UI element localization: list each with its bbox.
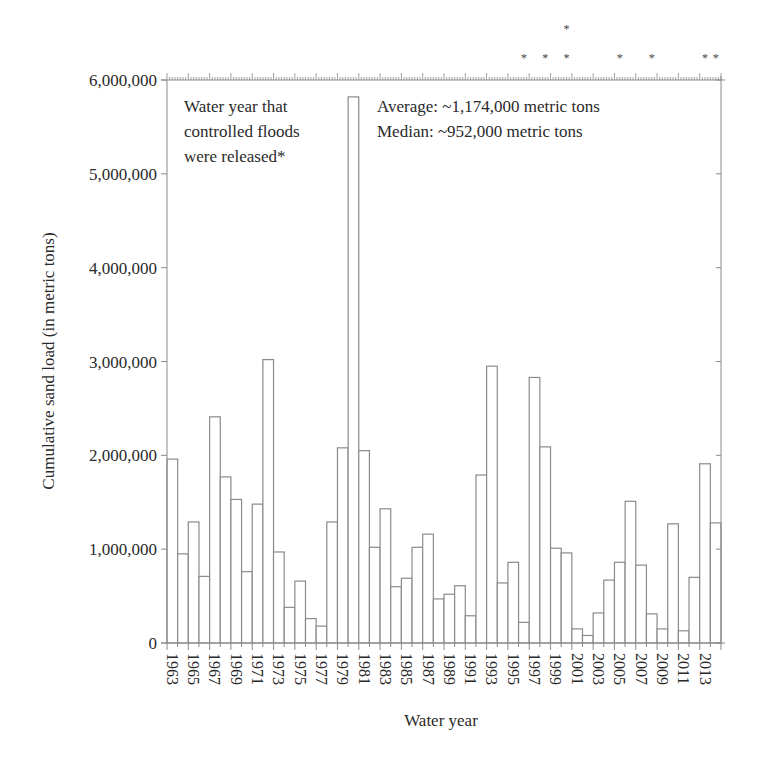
- bar-2008: [646, 614, 657, 643]
- flood-marker-2000: *: [564, 51, 570, 65]
- bar-1974: [284, 607, 295, 643]
- bar-1971: [252, 504, 263, 643]
- bar-1978: [327, 522, 338, 643]
- x-tick-label: 1999: [547, 653, 564, 685]
- bar-1982: [369, 547, 380, 643]
- y-tick-label: 1,000,000: [89, 540, 157, 559]
- bar-1976: [306, 619, 317, 643]
- bar-1989: [444, 594, 455, 643]
- x-tick-label: 2013: [697, 653, 714, 685]
- top-axis-minor-ticks: [167, 73, 721, 80]
- x-tick-label: 1967: [206, 653, 223, 685]
- bar-2011: [678, 631, 689, 643]
- bar-1999: [551, 548, 562, 643]
- bar-2000: [561, 553, 572, 643]
- y-tick-label: 4,000,000: [89, 259, 157, 278]
- bar-1979: [337, 448, 348, 643]
- chart-container: 01,000,0002,000,0003,000,0004,000,0005,0…: [0, 0, 767, 770]
- bar-1983: [380, 509, 391, 643]
- bar-1993: [487, 366, 498, 643]
- bar-2001: [572, 629, 583, 643]
- x-tick-label: 1963: [164, 653, 181, 685]
- y-axis-title: Cumulative sand load (in metric tons): [39, 232, 58, 489]
- bar-1975: [295, 581, 306, 643]
- annotation-median: Median: ~952,000 metric tons: [377, 122, 583, 141]
- bar-1969: [231, 499, 242, 643]
- x-tick-label: 1989: [441, 653, 458, 685]
- bar-2009: [657, 629, 668, 643]
- bar-2014: [710, 523, 721, 643]
- bar-1977: [316, 626, 327, 643]
- bar-1970: [242, 572, 253, 643]
- annotation-flood-legend-line1: Water year that: [184, 97, 288, 116]
- bar-1972: [263, 360, 274, 643]
- bar-2010: [668, 524, 679, 643]
- x-tick-label: 2009: [654, 653, 671, 685]
- bar-1998: [540, 447, 551, 643]
- bar-2012: [689, 577, 700, 643]
- bar-2007: [636, 565, 647, 643]
- bar-1965: [188, 522, 199, 643]
- bar-1963: [167, 459, 178, 643]
- flood-marker-2005: *: [617, 51, 623, 65]
- flood-marker-1998: *: [542, 51, 548, 65]
- x-tick-label: 2007: [633, 653, 650, 685]
- bar-1988: [433, 599, 444, 643]
- annotation-flood-legend-line3: were released*: [184, 147, 285, 166]
- bars-group: [167, 97, 721, 643]
- y-tick-label: 2,000,000: [89, 446, 157, 465]
- x-tick-label: 1971: [249, 653, 266, 685]
- bar-1968: [220, 477, 231, 643]
- bar-1967: [210, 417, 221, 643]
- flood-markers: ********: [521, 22, 719, 65]
- bar-1981: [359, 451, 370, 643]
- x-tick-label: 1973: [270, 653, 287, 685]
- bar-1991: [465, 616, 476, 643]
- x-tick-label: 1983: [377, 653, 394, 685]
- bar-2003: [593, 613, 604, 643]
- x-tick-label: 1965: [185, 653, 202, 685]
- annotation-average: Average: ~1,174,000 metric tons: [377, 97, 600, 116]
- flood-marker-2014: *: [713, 51, 719, 65]
- x-tick-label: 2003: [590, 653, 607, 685]
- x-tick-label: 1975: [292, 653, 309, 685]
- flood-marker-2008: *: [649, 51, 655, 65]
- x-tick-label: 1979: [334, 653, 351, 685]
- bar-1992: [476, 475, 487, 643]
- x-tick-label: 1985: [398, 653, 415, 685]
- x-tick-label: 1969: [228, 653, 245, 685]
- x-axis-title: Water year: [404, 711, 478, 730]
- x-tick-label: 1993: [483, 653, 500, 685]
- bar-1966: [199, 576, 210, 643]
- x-axis-ticks: 1963196519671969197119731975197719791981…: [164, 643, 721, 685]
- bar-1994: [497, 583, 508, 643]
- x-tick-label: 2001: [569, 653, 586, 685]
- bar-2013: [700, 464, 711, 643]
- y-tick-label: 0: [149, 634, 158, 653]
- x-tick-label: 1981: [356, 653, 373, 685]
- flood-marker-2000: *: [564, 22, 570, 36]
- bar-2002: [583, 635, 594, 643]
- bar-1986: [412, 547, 423, 643]
- bar-1997: [529, 377, 540, 643]
- x-tick-label: 1995: [505, 653, 522, 685]
- bar-2005: [614, 562, 625, 643]
- bar-2004: [604, 580, 615, 643]
- x-tick-label: 1977: [313, 653, 330, 685]
- x-tick-label: 2011: [675, 653, 692, 684]
- bar-chart: 01,000,0002,000,0003,000,0004,000,0005,0…: [0, 0, 767, 770]
- flood-marker-2013: *: [702, 51, 708, 65]
- x-tick-label: 1997: [526, 653, 543, 685]
- x-tick-label: 1991: [462, 653, 479, 685]
- x-tick-label: 1987: [420, 653, 437, 685]
- bar-1996: [519, 622, 530, 643]
- bar-1964: [178, 554, 189, 643]
- x-tick-label: 2005: [611, 653, 628, 685]
- y-tick-label: 6,000,000: [89, 71, 157, 90]
- flood-marker-1996: *: [521, 51, 527, 65]
- bar-1987: [423, 534, 434, 643]
- bar-1990: [455, 586, 466, 643]
- bar-1985: [401, 578, 412, 643]
- bar-2006: [625, 501, 636, 643]
- y-tick-label: 5,000,000: [89, 165, 157, 184]
